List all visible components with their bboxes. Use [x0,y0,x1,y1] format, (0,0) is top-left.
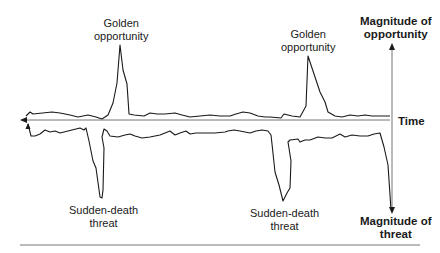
sudden-death-label-1: Sudden-death threat [69,204,138,230]
opportunity-threat-diagram: Golden opportunity Golden opportunity Su… [0,0,440,253]
time-axis-label: Time [398,115,425,128]
time-axis-arrow-icon [20,117,27,123]
golden-opportunity-label-1: Golden opportunity [94,17,148,43]
threat-line [28,124,391,210]
golden-opportunity-label-2: Golden opportunity [281,28,335,54]
magnitude-opportunity-label: Magnitude of opportunity [360,15,432,41]
arrow-up-icon [389,43,395,50]
sudden-death-label-2: Sudden-death threat [250,207,319,233]
arrow-down-icon [389,207,395,214]
opportunity-line [26,45,390,119]
magnitude-threat-label: Magnitude of threat [360,215,432,241]
